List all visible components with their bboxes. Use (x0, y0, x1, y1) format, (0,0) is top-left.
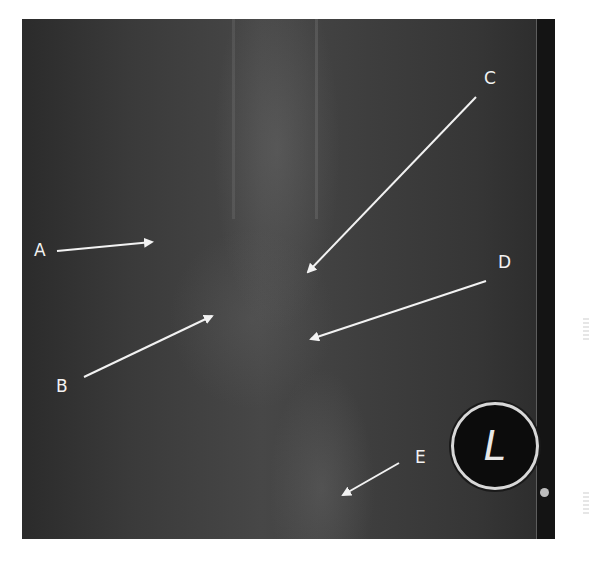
side-marker: L (451, 402, 539, 490)
arrow-b (84, 316, 212, 377)
label-c: C (484, 70, 496, 87)
marker-dot (540, 488, 549, 497)
label-d: D (498, 254, 511, 271)
margin-mark (583, 492, 589, 514)
arrow-e (343, 463, 399, 495)
arrow-c (308, 97, 476, 272)
label-a: A (34, 242, 46, 259)
margin-mark (583, 318, 589, 340)
arrow-d (311, 281, 486, 339)
arrow-a (57, 242, 152, 251)
label-b: B (56, 378, 68, 395)
label-e: E (415, 449, 426, 466)
side-marker-letter: L (484, 423, 506, 469)
